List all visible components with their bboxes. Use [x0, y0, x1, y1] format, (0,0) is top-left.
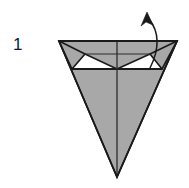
step-number-label: 1 [13, 35, 22, 54]
fold-arrow-head-icon [141, 12, 153, 26]
origami-diagram-canvas [0, 0, 189, 188]
origami-diagram-figure: 1 [0, 0, 189, 188]
